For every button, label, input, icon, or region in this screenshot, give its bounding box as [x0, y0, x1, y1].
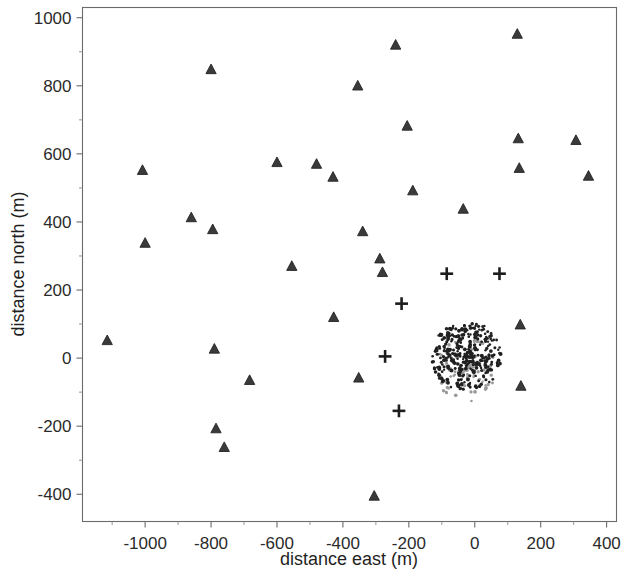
cluster-point — [493, 353, 496, 356]
y-tick-label-800: 800 — [43, 77, 71, 96]
cluster-point — [469, 327, 472, 330]
triangle-marker — [516, 381, 526, 391]
cluster-point — [463, 381, 465, 383]
triangle-marker — [583, 171, 593, 181]
cluster-point — [491, 382, 494, 385]
cluster-point — [468, 340, 472, 344]
cluster-point — [493, 346, 496, 349]
cluster-point — [467, 335, 470, 338]
triangle-marker — [512, 29, 522, 39]
cluster-point — [460, 341, 463, 344]
cluster-point — [454, 394, 458, 398]
cluster-point — [442, 355, 445, 358]
cluster-point — [454, 327, 457, 330]
cluster-point — [458, 354, 461, 357]
triangle-marker — [206, 64, 216, 74]
x-tick-label-200: 200 — [526, 534, 554, 553]
cluster-point — [434, 349, 437, 352]
cluster-point — [481, 380, 484, 383]
triangle-marker — [186, 212, 196, 222]
cluster-point — [491, 378, 494, 381]
cluster-point — [462, 358, 464, 360]
cluster-point — [449, 375, 452, 378]
cluster-point — [454, 367, 457, 370]
cluster-point — [455, 382, 459, 386]
cluster-point — [486, 337, 489, 340]
cluster-point — [479, 365, 482, 368]
cluster-point — [438, 347, 441, 350]
plus-marker — [379, 350, 392, 363]
cluster-point — [461, 384, 463, 386]
cluster-point — [460, 378, 463, 381]
cluster-point — [453, 335, 456, 338]
cluster-point — [472, 355, 475, 358]
cluster-point — [467, 333, 469, 335]
cluster-point — [456, 350, 458, 352]
cluster-point — [476, 363, 478, 365]
triangle-marker — [208, 224, 218, 234]
cluster-point — [453, 352, 456, 355]
cluster-point — [444, 342, 447, 345]
cluster-point — [495, 339, 498, 342]
cluster-point — [439, 356, 442, 359]
cluster-point — [460, 333, 463, 336]
plus-marker — [440, 267, 453, 280]
triangle-marker — [211, 423, 221, 433]
cluster-point — [480, 383, 483, 386]
plus-marker — [493, 267, 506, 280]
cluster-point — [461, 374, 464, 377]
cluster-point — [468, 355, 471, 358]
cluster-point — [479, 358, 483, 362]
y-tick-label--400: -400 — [37, 485, 71, 504]
cluster-point — [482, 374, 485, 377]
y-tick-label-200: 200 — [43, 281, 71, 300]
triangle-marker — [287, 261, 297, 271]
cluster-point — [488, 381, 491, 384]
cluster-point — [442, 379, 445, 382]
scatter-plot-figure: -1000-800-600-400-2000200400 -400-200020… — [0, 0, 622, 577]
triangle-marker — [102, 335, 112, 345]
cluster-point — [499, 352, 503, 356]
cluster-point — [432, 361, 434, 363]
cluster-point — [465, 353, 467, 355]
triangle-marker — [311, 159, 321, 169]
x-axis-title: distance east (m) — [280, 549, 418, 569]
triangle-marker — [515, 319, 525, 329]
cluster-point — [445, 391, 448, 394]
cluster-point — [468, 345, 471, 348]
triangle-marker — [137, 165, 147, 175]
cluster-point — [431, 355, 434, 358]
cluster-point — [463, 347, 467, 351]
x-tick-label--800: -800 — [194, 534, 228, 553]
triangle-marker — [369, 491, 379, 501]
cluster-point — [447, 343, 451, 347]
cluster-point — [484, 359, 487, 362]
cluster-point — [450, 340, 452, 342]
cluster-point — [467, 383, 471, 387]
cluster-point — [468, 360, 471, 363]
cluster-point — [480, 340, 483, 343]
cluster-point — [452, 348, 455, 351]
cluster-point — [462, 388, 465, 391]
cluster-point — [480, 329, 483, 332]
cluster-point — [468, 352, 471, 355]
cluster-point — [473, 340, 476, 343]
triangle-marker — [354, 372, 364, 382]
cluster-point — [472, 364, 474, 366]
cluster-point — [458, 369, 461, 372]
cluster-point — [487, 365, 489, 367]
cluster-point — [456, 362, 460, 366]
cluster-point — [485, 384, 487, 386]
cluster-point — [459, 387, 462, 390]
plot-frame — [83, 8, 617, 522]
cluster-point — [452, 358, 455, 361]
cluster-point — [488, 335, 491, 338]
cluster-point — [474, 330, 477, 333]
triangle-marker — [513, 133, 523, 143]
cluster-point — [488, 357, 491, 360]
cluster-point — [460, 327, 464, 331]
cluster-point — [470, 400, 473, 403]
triangle-marker — [209, 344, 219, 354]
cluster-point — [485, 347, 488, 350]
cluster-point — [488, 354, 491, 357]
